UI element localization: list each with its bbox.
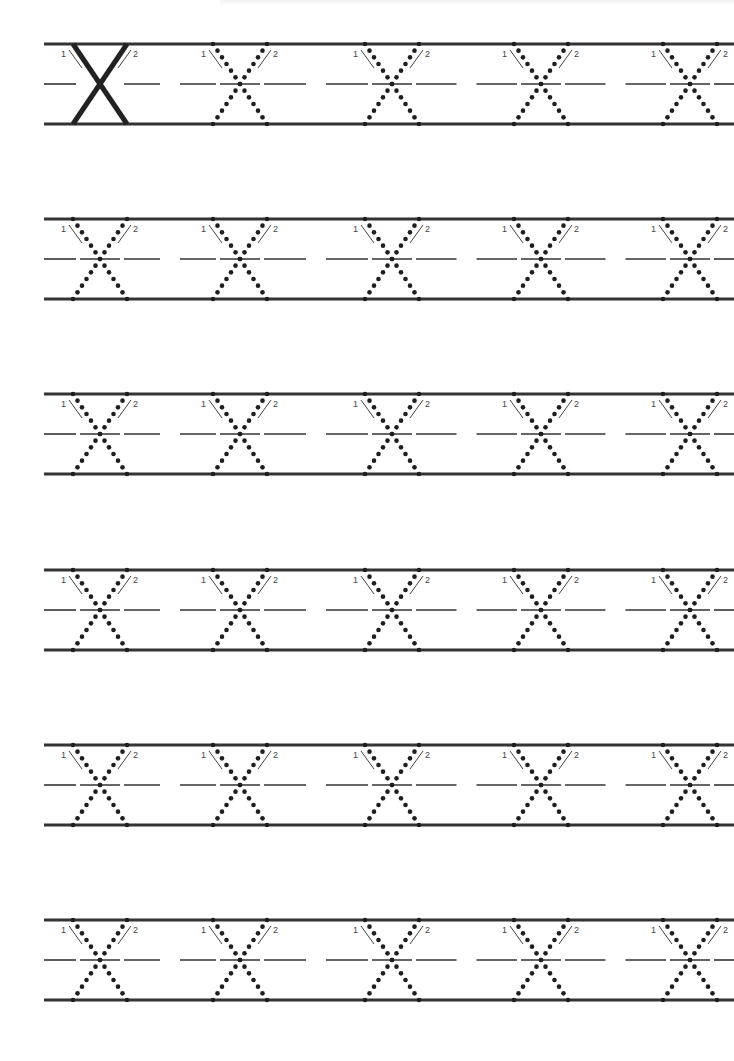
trace-dot (715, 472, 720, 477)
trace-dot (543, 776, 548, 781)
trace-dot (543, 88, 548, 93)
trace-dot (385, 250, 390, 255)
trace-dot (674, 803, 679, 808)
trace-dot (566, 998, 571, 1003)
trace-dot (394, 964, 399, 969)
trace-dot (665, 223, 670, 228)
trace-dot (367, 290, 372, 295)
trace-dot (561, 574, 566, 579)
trace-dot (80, 581, 85, 586)
stroke-2-arrow-icon (708, 400, 721, 418)
trace-dot (71, 217, 76, 222)
trace-dot (125, 297, 130, 302)
trace-dot (215, 574, 220, 579)
trace-dot (363, 568, 368, 573)
trace-dot (399, 621, 404, 626)
trace-dot (670, 405, 675, 410)
trace-dot (399, 243, 404, 248)
trace-dot (256, 55, 261, 60)
trace-dot (238, 783, 243, 788)
trace-dot (412, 991, 417, 996)
stroke-1-arrow-icon (361, 400, 374, 418)
trace-dot (417, 998, 422, 1003)
trace-dot (363, 743, 368, 748)
trace-dot (665, 641, 670, 646)
stroke-order-label-2: 2 (723, 49, 728, 59)
stroke-1-arrow-icon (659, 926, 672, 944)
trace-dot (265, 392, 270, 397)
trace-dot (390, 82, 395, 87)
trace-dot (211, 823, 216, 828)
trace-dot (548, 270, 553, 275)
trace-dot (557, 756, 562, 761)
trace-dot (539, 432, 544, 437)
stroke-2-arrow-icon (559, 50, 572, 68)
trace-dot (238, 958, 243, 963)
stroke-1-arrow-icon (510, 926, 523, 944)
trace-dot (116, 283, 121, 288)
trace-dot (683, 75, 688, 80)
stroke-2-arrow-icon (410, 576, 423, 594)
trace-dot (385, 776, 390, 781)
trace-dot (256, 108, 261, 113)
trace-dot (111, 237, 116, 242)
stroke-2-arrow-icon (559, 751, 572, 769)
trace-dot (224, 102, 229, 107)
trace-dot (242, 951, 247, 956)
trace-dot (665, 991, 670, 996)
trace-dot (75, 924, 80, 929)
trace-dot (229, 769, 234, 774)
trace-dot (692, 88, 697, 93)
trace-dot (412, 223, 417, 228)
trace-dot (75, 749, 80, 754)
trace-dot (98, 608, 103, 613)
trace-dot (543, 263, 548, 268)
stroke-order-label-1: 1 (353, 750, 358, 760)
trace-dot (670, 756, 675, 761)
trace-dot (394, 951, 399, 956)
trace-dot (543, 614, 548, 619)
trace-dot (412, 574, 417, 579)
trace-dot (93, 614, 98, 619)
trace-dot (701, 412, 706, 417)
trace-dot (534, 601, 539, 606)
trace-dot (683, 263, 688, 268)
trace-dot (552, 412, 557, 417)
trace-dot (385, 75, 390, 80)
trace-dot (394, 776, 399, 781)
trace-dot (521, 634, 526, 639)
stroke-1-arrow-icon (69, 400, 82, 418)
stroke-2-arrow-icon (708, 926, 721, 944)
trace-dot (215, 223, 220, 228)
trace-dot (211, 998, 216, 1003)
trace-dot (561, 991, 566, 996)
trace-dot (242, 601, 247, 606)
trace-dot (412, 641, 417, 646)
trace-dot (715, 743, 720, 748)
trace-dot (512, 472, 517, 477)
stroke-1-arrow-icon (69, 576, 82, 594)
trace-dot (697, 445, 702, 450)
stroke-order-label-2: 2 (273, 750, 278, 760)
trace-dot (408, 809, 413, 814)
stroke-2-arrow-icon (258, 926, 271, 944)
trace-dot (75, 290, 80, 295)
stroke-2-arrow-icon (258, 50, 271, 68)
trace-dot (93, 601, 98, 606)
trace-dot (674, 237, 679, 242)
stroke-order-label-2: 2 (425, 224, 430, 234)
trace-dot (385, 614, 390, 619)
trace-dot (256, 283, 261, 288)
trace-dot (692, 789, 697, 794)
trace-dot (211, 568, 216, 573)
trace-dot (107, 621, 112, 626)
trace-dot (516, 398, 521, 403)
trace-dot (381, 68, 386, 73)
stroke-2-arrow-icon (410, 926, 423, 944)
stroke-order-label-2: 2 (273, 224, 278, 234)
trace-dot (385, 789, 390, 794)
trace-dot (233, 425, 238, 430)
trace-dot (710, 924, 715, 929)
trace-dot (408, 55, 413, 60)
trace-dot (265, 297, 270, 302)
